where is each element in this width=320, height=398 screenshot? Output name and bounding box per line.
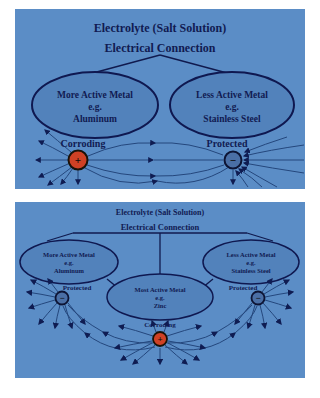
field-line <box>55 305 60 328</box>
electrical-connection-label: Electrical Connection <box>121 222 200 232</box>
bottom-diagram-canvas: Electrolyte (Salt Solution) Electrical C… <box>15 202 305 378</box>
more-active-metal-line1: More Active Metal <box>43 251 95 258</box>
field-line <box>29 300 55 308</box>
electrolyte-title: Electrolyte (Salt Solution) <box>94 21 226 35</box>
more-active-metal-line2: e.g. <box>64 259 74 266</box>
less-active-metal-line3: Stainless Steel <box>203 114 261 124</box>
less-active-metal-line1: Less Active Metal <box>226 251 275 258</box>
field-line <box>245 137 287 152</box>
plus-icon: + <box>75 154 81 166</box>
less-active-metal-line2: e.g. <box>225 102 239 112</box>
most-active-metal-line2: e.g. <box>155 294 165 301</box>
field-line <box>133 345 155 364</box>
field-line <box>48 167 72 185</box>
corroding-label: Corroding <box>144 321 176 329</box>
field-line <box>68 303 85 324</box>
most-active-metal-line3: Zinc <box>154 302 167 309</box>
less-active-metal-line1: Less Active Metal <box>196 90 268 100</box>
most-active-metal-line1: Most Active Metal <box>135 286 186 293</box>
field-line <box>263 303 281 324</box>
electrical-connection-label: Electrical Connection <box>105 41 216 55</box>
field-line <box>244 145 304 156</box>
protected-label-left: Protected <box>63 284 92 292</box>
connection-line-right <box>160 55 227 73</box>
more-active-metal-line2: e.g. <box>88 102 102 112</box>
less-active-metal-line3: Stainless Steel <box>231 267 270 274</box>
electrolyte-title: Electrolyte (Salt Solution) <box>116 208 205 217</box>
more-active-metal-line3: Aluminum <box>54 267 85 274</box>
galvanic-couple-diagram: Electrolyte (Salt Solution) Electrical C… <box>15 9 305 189</box>
field-line <box>265 292 293 297</box>
field-line <box>39 303 57 324</box>
field-line <box>27 292 55 297</box>
field-line <box>265 300 291 308</box>
field-line <box>83 167 157 183</box>
minus-icon: − <box>230 154 236 166</box>
minus-icon: − <box>255 293 260 303</box>
protected-label: Protected <box>207 138 248 149</box>
field-line <box>260 305 265 328</box>
connection-line-left <box>93 55 160 73</box>
field-line <box>235 303 252 324</box>
field-line <box>244 163 304 173</box>
top-diagram-canvas: Electrolyte (Salt Solution) Electrical C… <box>15 9 305 189</box>
more-active-metal-line1: More Active Metal <box>57 90 133 100</box>
field-line <box>155 165 224 176</box>
field-line <box>165 345 187 364</box>
plus-icon: + <box>157 334 162 344</box>
sacrificial-anode-diagram: Electrolyte (Salt Solution) Electrical C… <box>15 202 305 378</box>
field-line <box>39 164 68 177</box>
field-line <box>157 167 229 183</box>
protected-label-right: Protected <box>229 284 258 292</box>
corroding-label: Corroding <box>61 138 106 149</box>
less-active-metal-line2: e.g. <box>246 259 256 266</box>
minus-icon: − <box>59 293 64 303</box>
more-active-metal-line3: Aluminum <box>73 114 117 124</box>
